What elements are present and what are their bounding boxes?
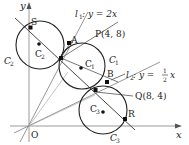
label-l2: l 2 : y = 1 2 x [126,67,175,83]
svg-text:3: 3 [116,137,120,144]
label-circle-c3: C 3 [110,133,120,144]
point-tangent-2 [94,88,98,92]
circle-c3 [79,86,127,134]
svg-text:x: x [170,70,175,80]
label-center-c3: C 3 [90,104,100,115]
label-s: S [31,17,37,27]
svg-text:1: 1 [163,67,167,74]
label-a: A [70,35,78,45]
point-tangent-1 [59,56,63,60]
svg-text:: y = 2x: : y = 2x [82,9,117,19]
label-center-c2: C 2 [35,49,45,60]
y-axis-label: y [19,0,26,11]
leader-p [61,22,118,58]
leader-q [96,92,133,96]
center-c1-dot [79,66,83,70]
x-axis-label: x [176,129,182,140]
label-q: Q(8, 4) [135,91,167,101]
svg-text:3: 3 [96,108,100,115]
x-axis-arrow-icon [175,124,182,129]
svg-text:1: 1 [115,59,119,66]
center-c2-dot [37,42,41,46]
svg-text:l: l [75,9,78,19]
geometry-diagram: y x O S A P(4, 8) B Q(8, 4) R l 1 : y = … [0,0,189,145]
point-r [123,117,127,121]
center-c3-dot [101,110,105,114]
label-center-c1: C 1 [85,59,95,70]
label-p: P(4, 8) [95,29,125,39]
origin-label: O [31,130,38,140]
svg-text:1: 1 [91,63,95,70]
label-b: B [107,69,114,79]
point-b [105,80,109,84]
label-r: R [128,109,135,119]
label-circle-c2: C 2 [4,56,14,67]
svg-text:2: 2 [41,53,45,60]
svg-text:2: 2 [10,60,14,67]
aux-line-2 [29,95,95,126]
aux-line-1 [29,72,68,126]
label-l1: l 1 : y = 2x [75,9,117,20]
label-circle-c1: C 1 [109,55,119,66]
svg-text:l: l [126,70,129,80]
svg-text:2: 2 [163,76,167,83]
y-axis-arrow-icon [27,2,32,9]
svg-text:: y =: : y = [133,70,154,80]
